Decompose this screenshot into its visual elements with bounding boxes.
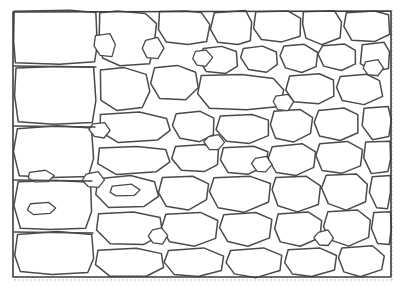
stone <box>100 68 149 111</box>
stone <box>158 11 209 45</box>
stone <box>303 11 342 45</box>
stone <box>164 248 223 277</box>
stone <box>216 115 268 144</box>
stone <box>286 74 334 104</box>
stone <box>95 248 163 276</box>
mortar-line <box>14 232 93 233</box>
stone <box>100 112 170 143</box>
stone <box>272 176 320 212</box>
stone <box>14 10 98 64</box>
stone-wall-figure: Black and white line drawing of a rubble… <box>0 0 405 291</box>
stones-group <box>13 10 391 277</box>
stone <box>318 44 355 71</box>
mortar-line <box>14 180 92 181</box>
stone <box>226 248 282 278</box>
stone <box>210 10 251 44</box>
stone <box>161 212 217 246</box>
stone <box>344 11 390 42</box>
stone <box>27 202 55 214</box>
stone-wall-illustration <box>0 0 405 291</box>
stone <box>151 65 199 99</box>
stone <box>314 108 358 140</box>
stone <box>15 232 94 275</box>
stone <box>254 11 301 42</box>
stone <box>98 147 170 175</box>
stone <box>198 74 284 109</box>
stone <box>316 141 363 173</box>
mortar-line <box>14 66 96 67</box>
mortar-line <box>14 126 95 127</box>
stone <box>15 66 96 124</box>
stone <box>285 248 337 276</box>
stone <box>280 44 318 72</box>
stone <box>337 74 383 104</box>
stone <box>13 126 93 178</box>
